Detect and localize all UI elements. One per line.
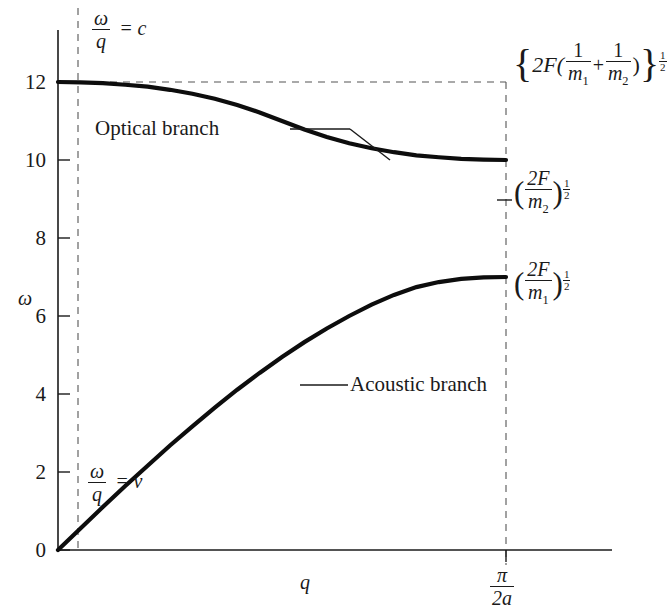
annotation-slope-v: ω q = v (88, 461, 143, 507)
label-omega-max-formula: { 2F( 1 m1 + 1 m2 ) } 1 2 (513, 40, 667, 90)
slope-c-denominator: q (92, 30, 110, 52)
x-tick-label-zone-boundary: π 2a (490, 565, 514, 609)
slope-v-equals: = v (115, 470, 142, 492)
coefficient-2F: 2F( (532, 54, 564, 76)
zone-boundary-denominator: 2a (490, 587, 514, 609)
optical-frac-denominator: m2 (525, 190, 551, 217)
slope-c-equals: = c (119, 17, 146, 39)
x-axis-label: q (300, 572, 310, 592)
acoustic-frac-denominator: m1 (525, 281, 551, 308)
y-axis-label: ω (18, 288, 32, 308)
close-paren: ) (633, 54, 640, 76)
acoustic-frac-numerator: 2F (525, 258, 551, 281)
slope-c-numerator: ω (92, 7, 110, 30)
exponent-one-half: 1 2 (659, 50, 667, 73)
optical-left-paren: ( (514, 179, 524, 207)
slope-v-denominator: q (88, 483, 106, 505)
y-tick-label-12: 12 (6, 72, 46, 93)
y-tick-label-4: 4 (14, 384, 46, 405)
y-tick-label-2: 2 (14, 462, 46, 483)
acoustic-branch-label: Acoustic branch (350, 374, 487, 395)
acoustic-left-paren: ( (514, 270, 524, 298)
plus-sign: + (593, 55, 604, 75)
frac2-denominator: m2 (606, 62, 631, 89)
frac2-numerator: 1 (606, 39, 631, 62)
frac1-numerator: 1 (566, 39, 591, 62)
y-tick-label-0: 0 (14, 540, 46, 561)
label-acoustic-endpoint-formula: ( 2F m1 ) 1 2 (514, 259, 570, 309)
y-tick-label-10: 10 (6, 150, 46, 171)
slope-v-numerator: ω (88, 460, 106, 483)
y-tick-label-8: 8 (14, 228, 46, 249)
annotation-slope-c: ω q = c (92, 8, 147, 54)
label-optical-endpoint-formula: ( 2F m2 ) 1 2 (514, 168, 570, 218)
optical-branch-label: Optical branch (95, 118, 219, 139)
optical-right-paren: ) (553, 179, 563, 207)
optical-exponent-one-half: 1 2 (563, 178, 571, 201)
acoustic-branch-curve (58, 277, 506, 550)
zone-boundary-numerator: π (490, 564, 514, 587)
left-brace: { (513, 46, 532, 82)
optical-frac-numerator: 2F (525, 167, 551, 190)
right-brace: } (640, 46, 659, 82)
acoustic-exponent-one-half: 1 2 (563, 269, 571, 292)
acoustic-right-paren: ) (553, 270, 563, 298)
y-tick-label-6: 6 (14, 306, 46, 327)
frac1-denominator: m1 (566, 62, 591, 89)
